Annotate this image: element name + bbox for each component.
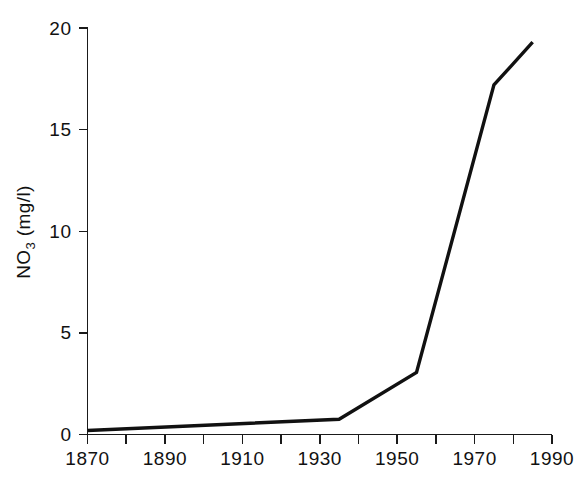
- y-tick-label: 5: [60, 322, 71, 343]
- x-tick-label: 1870: [65, 448, 109, 469]
- y-axis-title-unit: (mg/l): [13, 185, 34, 242]
- x-tick-label: 1990: [530, 448, 574, 469]
- y-axis-title-base: NO: [13, 249, 34, 278]
- y-tick-label: 10: [49, 221, 71, 242]
- y-tick-label: 0: [60, 424, 71, 445]
- x-tick-label: 1950: [375, 448, 419, 469]
- x-tick-label: 1930: [298, 448, 342, 469]
- x-tick-label: 1890: [143, 448, 187, 469]
- line-chart: 05101520 1870189019101930195019701990 NO…: [0, 0, 586, 486]
- x-tick-label: 1910: [220, 448, 264, 469]
- x-tick-label: 1970: [452, 448, 496, 469]
- chart-container: 05101520 1870189019101930195019701990 NO…: [0, 0, 586, 486]
- y-tick-label: 15: [49, 119, 71, 140]
- y-axis-title-subscript: 3: [23, 242, 38, 250]
- y-tick-label: 20: [49, 18, 71, 39]
